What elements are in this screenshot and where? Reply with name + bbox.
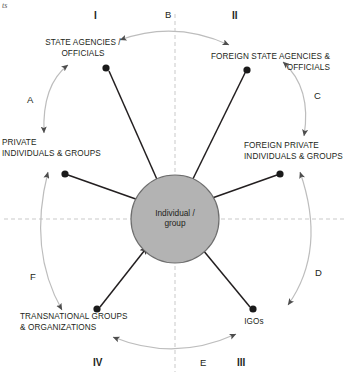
node-dot-state-agencies [102, 64, 109, 71]
arc-c-label: C [314, 90, 321, 101]
quadrant-ii-label: II [232, 10, 238, 21]
arc-b-label: B [165, 9, 171, 20]
spoke-transnational-groups [100, 246, 148, 307]
node-label-state-agencies: STATE AGENCIES / OFFICIALS [28, 38, 138, 59]
spoke-state-agencies [109, 71, 163, 193]
node-label-foreign-state-agencies: FOREIGN STATE AGENCIES & OFFICIALS [178, 52, 330, 73]
arc-f-path [41, 172, 62, 310]
node-dot-igos [249, 305, 256, 312]
arc-d-path [288, 172, 311, 305]
arc-e-label: E [200, 357, 206, 368]
quadrant-i-label: I [94, 10, 97, 21]
node-label-transnational-groups: TRANSNATIONAL GROUPS & ORGANIZATIONS [20, 312, 150, 333]
arc-c-path [283, 62, 306, 136]
arc-a-label: A [27, 94, 33, 105]
node-dot-private-individuals [61, 170, 68, 177]
arc-f-label: F [30, 271, 36, 282]
spoke-private-individuals [68, 175, 147, 203]
quadrant-iii-label: III [237, 357, 245, 368]
hub-label: Individual / group [140, 208, 210, 228]
arc-a-path [44, 65, 68, 133]
node-label-igos: IGOs [232, 317, 276, 328]
node-label-private-individuals: PRIVATE INDIVIDUALS & GROUPS [2, 138, 117, 159]
spoke-foreign-state-agencies [186, 73, 245, 193]
spoke-igos [198, 244, 250, 307]
node-label-foreign-private: FOREIGN PRIVATE INDIVIDUALS & GROUPS [244, 141, 351, 162]
diagram-root: ts [0, 0, 351, 375]
node-dot-foreign-private [276, 170, 283, 177]
arc-d-label: D [315, 267, 322, 278]
quadrant-iv-label: IV [93, 357, 102, 368]
